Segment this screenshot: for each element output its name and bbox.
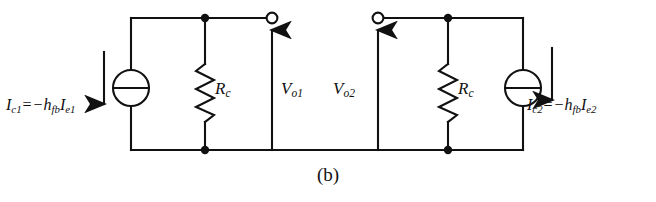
label-output-left: Vo1	[281, 80, 303, 100]
label-current-left: Ic1=−hfbIe1	[6, 97, 76, 115]
junction-dot	[201, 14, 209, 22]
label-current-right: Ic2=−hfbIe2	[527, 97, 597, 115]
circuit-figure: Ic1=−hfbIe1 Ic2=−hfbIe2 Rc Rc Vo1 Vo2 (b…	[0, 0, 656, 202]
resistor-right	[439, 64, 457, 122]
resistor-left	[196, 64, 214, 122]
open-terminal-right	[373, 13, 384, 24]
junction-dot	[201, 146, 209, 154]
open-terminal-left	[267, 13, 278, 24]
figure-caption: (b)	[0, 164, 656, 186]
label-resistor-right: Rc	[458, 80, 474, 100]
junction-dot	[444, 146, 452, 154]
left-half-network	[131, 18, 272, 150]
junction-dots	[201, 14, 452, 154]
junction-dot	[444, 14, 452, 22]
label-resistor-left: Rc	[215, 80, 231, 100]
label-output-right: Vo2	[333, 80, 355, 100]
current-source-left	[113, 70, 149, 106]
